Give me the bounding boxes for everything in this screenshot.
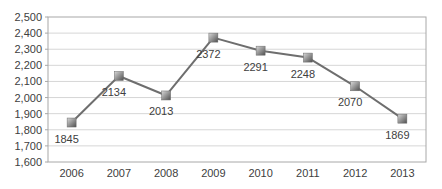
data-point-label: 2070 [338, 96, 362, 108]
chart-canvas: 1,6001,7001,8001,9002,0002,1002,2002,300… [0, 0, 442, 189]
data-point-marker [303, 53, 312, 62]
data-point-marker [67, 118, 76, 127]
line-chart: 1,6001,7001,8001,9002,0002,1002,2002,300… [0, 0, 442, 189]
x-axis-label: 2006 [59, 167, 83, 179]
y-axis-label: 2,000 [14, 92, 42, 104]
data-point-marker [351, 82, 360, 91]
y-axis-label: 2,400 [14, 27, 42, 39]
x-axis-label: 2013 [390, 167, 414, 179]
x-axis-label: 2007 [107, 167, 131, 179]
y-axis-label: 1,900 [14, 108, 42, 120]
data-point-label: 2013 [149, 105, 173, 117]
y-axis-label: 1,800 [14, 124, 42, 136]
data-point-label: 1869 [385, 129, 409, 141]
data-point-label: 2248 [291, 68, 315, 80]
data-point-label: 2372 [196, 48, 220, 60]
data-point-marker [256, 46, 265, 55]
y-axis-label: 2,500 [14, 11, 42, 23]
y-axis-label: 1,600 [14, 156, 42, 168]
data-point-label: 2134 [102, 86, 126, 98]
data-point-marker [209, 33, 218, 42]
x-axis-label: 2012 [343, 167, 367, 179]
x-axis-label: 2008 [154, 167, 178, 179]
y-axis-label: 2,200 [14, 59, 42, 71]
y-axis-label: 2,100 [14, 75, 42, 87]
x-axis-label: 2009 [201, 167, 225, 179]
x-axis-label: 2011 [296, 167, 320, 179]
y-axis-label: 2,300 [14, 43, 42, 55]
y-axis-label: 1,700 [14, 140, 42, 152]
data-point-label: 1845 [54, 133, 78, 145]
x-axis-label: 2010 [248, 167, 272, 179]
data-point-marker [162, 91, 171, 100]
data-point-label: 2291 [243, 61, 267, 73]
data-point-marker [398, 114, 407, 123]
data-point-marker [114, 71, 123, 80]
